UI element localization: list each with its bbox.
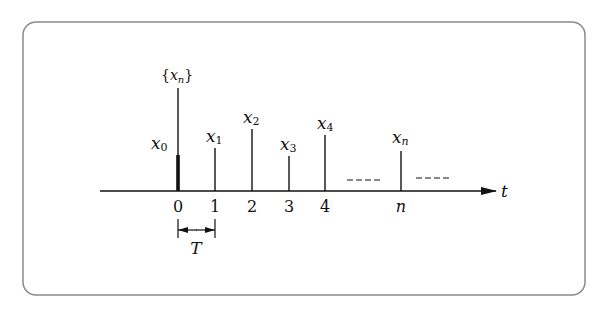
tick-label-4: 4 [320, 197, 330, 216]
diagram-frame [23, 22, 585, 295]
sequence-label: {xn} [161, 67, 193, 85]
axis-label-t: t [501, 181, 508, 201]
tick-label-0: 0 [173, 197, 183, 216]
tick-label-1: 1 [210, 197, 220, 216]
sequence-diagram: t {xn} x0 x1 x2 x3 x4 xn 0 1 2 3 4 n T [0, 0, 603, 314]
period-label-T: T [190, 238, 203, 258]
tick-label-3: 3 [284, 197, 294, 216]
tick-label-n: n [396, 197, 406, 216]
tick-label-2: 2 [247, 197, 257, 216]
